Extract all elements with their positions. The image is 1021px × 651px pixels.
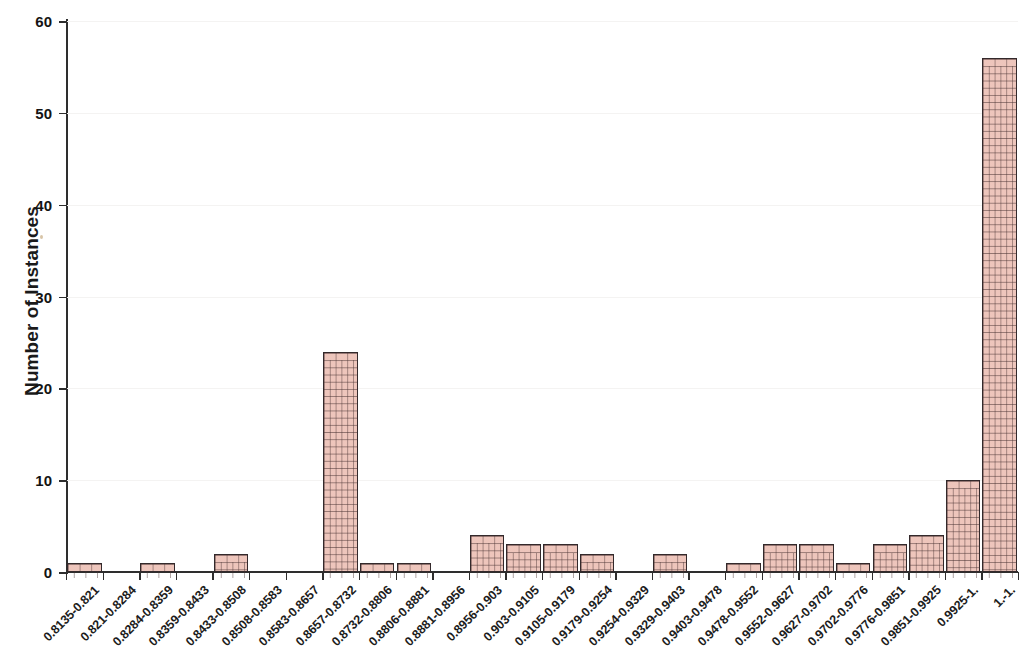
x-tick-mark (322, 572, 323, 580)
x-tick-mark (66, 572, 67, 580)
x-tick-mark (615, 572, 616, 580)
scan-artifact (40, 235, 43, 239)
y-tick-mark (59, 388, 67, 390)
x-tick-mark (835, 572, 836, 580)
y-tick-label: 30 (0, 290, 52, 305)
gridline (66, 21, 1018, 22)
y-tick-label: 10 (0, 473, 52, 488)
histogram-bar[interactable] (360, 563, 394, 572)
x-tick-mark (945, 572, 946, 580)
y-tick-label: 60 (0, 14, 52, 29)
x-tick-mark (212, 572, 213, 580)
gridline (66, 480, 1018, 481)
gridline (66, 205, 1018, 206)
histogram-bar[interactable] (946, 480, 980, 572)
y-tick-mark (59, 21, 67, 23)
x-tick-mark (579, 572, 580, 580)
histogram-bar[interactable] (726, 563, 760, 572)
histogram-bar[interactable] (214, 554, 248, 572)
gridline (66, 388, 1018, 389)
histogram-bar[interactable] (763, 544, 797, 572)
x-tick-mark (688, 572, 689, 580)
x-tick-mark (872, 572, 873, 580)
x-tick-mark (652, 572, 653, 580)
histogram-bar[interactable] (982, 58, 1016, 572)
x-tick-mark (542, 572, 543, 580)
histogram-bar[interactable] (836, 563, 870, 572)
x-tick-mark (762, 572, 763, 580)
x-tick-mark (139, 572, 140, 580)
x-tick-mark (396, 572, 397, 580)
x-tick-mark (359, 572, 360, 580)
x-tick-mark (505, 572, 506, 580)
gridline (66, 113, 1018, 114)
y-tick-label: 0 (0, 565, 52, 580)
histogram-bar[interactable] (397, 563, 431, 572)
histogram-bar[interactable] (580, 554, 614, 572)
histogram-bar[interactable] (909, 535, 943, 572)
x-tick-mark (1018, 572, 1019, 580)
histogram-bar[interactable] (653, 554, 687, 572)
histogram-bar[interactable] (67, 563, 101, 572)
gridline (66, 297, 1018, 298)
x-tick-label: 1.-1. (990, 583, 1017, 610)
y-tick-mark (59, 297, 67, 299)
x-tick-mark (798, 572, 799, 580)
x-tick-mark (725, 572, 726, 580)
y-tick-mark (59, 480, 67, 482)
x-tick-mark (249, 572, 250, 580)
histogram-bar[interactable] (873, 544, 907, 572)
x-tick-mark (103, 572, 104, 580)
x-tick-mark (981, 572, 982, 580)
plot-area (66, 21, 1018, 572)
histogram-bar[interactable] (799, 544, 833, 572)
x-tick-mark (286, 572, 287, 580)
histogram-bar[interactable] (140, 563, 174, 572)
histogram-bar[interactable] (506, 544, 540, 572)
x-tick-mark (908, 572, 909, 580)
y-tick-label: 40 (0, 198, 52, 213)
y-tick-label: 20 (0, 381, 52, 396)
y-tick-mark (59, 113, 67, 115)
x-tick-mark (176, 572, 177, 580)
y-tick-mark (59, 205, 67, 207)
histogram-bar[interactable] (323, 352, 357, 572)
y-tick-label: 50 (0, 106, 52, 121)
x-tick-mark (432, 572, 433, 580)
histogram-bar[interactable] (470, 535, 504, 572)
x-tick-mark (469, 572, 470, 580)
histogram-chart: Number of Instances 0102030405060 0.8135… (0, 0, 1021, 651)
histogram-bar[interactable] (543, 544, 577, 572)
